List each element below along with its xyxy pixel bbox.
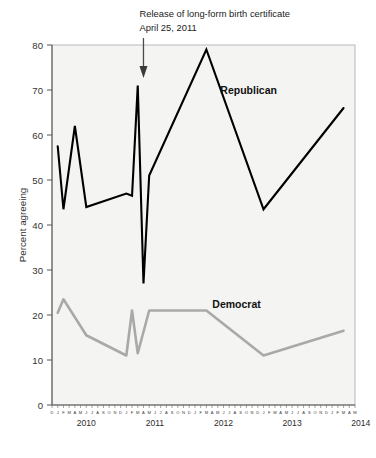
x-month-label: J: [160, 410, 162, 415]
x-month-label: N: [113, 410, 116, 415]
y-tick-label-80: 80: [32, 40, 43, 51]
y-tick-label-20: 20: [32, 310, 43, 321]
x-month-label: J: [297, 410, 299, 415]
x-month-label: M: [79, 410, 83, 415]
x-month-label: M: [136, 410, 140, 415]
x-month-label: A: [142, 410, 145, 415]
x-month-label: M: [285, 410, 289, 415]
x-month-label: J: [331, 410, 333, 415]
x-month-label: A: [74, 410, 77, 415]
x-month-label: O: [313, 410, 316, 415]
x-month-label: N: [251, 410, 254, 415]
x-month-label: N: [182, 410, 185, 415]
y-tick-label-10: 10: [32, 355, 43, 366]
y-tick-label-30: 30: [32, 265, 43, 276]
x-month-label: J: [291, 410, 293, 415]
x-month-label: A: [96, 410, 99, 415]
x-month-label: M: [147, 410, 151, 415]
x-month-label: D: [325, 410, 328, 415]
y-tick-label-70: 70: [32, 85, 43, 96]
x-month-label: J: [222, 410, 224, 415]
x-month-label: J: [194, 410, 196, 415]
x-month-label: A: [234, 410, 237, 415]
x-month-label: S: [171, 410, 174, 415]
x-month-label: J: [125, 410, 127, 415]
x-month-label: S: [102, 410, 105, 415]
x-month-label: A: [302, 410, 305, 415]
x-year-label-2014: 2014: [351, 418, 370, 428]
x-year-label-2013: 2013: [283, 418, 302, 428]
x-month-label: D: [119, 410, 122, 415]
x-month-label: M: [273, 410, 277, 415]
y-tick-label-0: 0: [38, 400, 43, 411]
x-month-label: S: [308, 410, 311, 415]
x-year-label-2012: 2012: [214, 418, 233, 428]
y-tick-label-40: 40: [32, 220, 43, 231]
x-month-label: N: [319, 410, 322, 415]
annotation-line-1: Release of long-form birth certificate: [139, 8, 290, 19]
birther-poll-line-chart: 01020304050607080 Percent agreeing DJFMA…: [0, 0, 376, 458]
x-month-label: M: [342, 410, 346, 415]
democrat-series-label: Democrat: [212, 298, 261, 310]
x-month-label: O: [108, 410, 111, 415]
x-month-label: A: [279, 410, 282, 415]
x-month-label: D: [256, 410, 259, 415]
x-month-label: J: [91, 410, 93, 415]
x-year-label-2011: 2011: [146, 418, 165, 428]
x-year-label-2010: 2010: [77, 418, 96, 428]
x-month-label: M: [67, 410, 71, 415]
x-month-label: A: [165, 410, 168, 415]
x-month-label: J: [85, 410, 87, 415]
x-month-label: J: [228, 410, 230, 415]
republican-series-label: Republican: [220, 84, 277, 96]
y-tick-label-60: 60: [32, 130, 43, 141]
annotation-line-2: April 25, 2011: [139, 22, 196, 33]
x-month-label: S: [239, 410, 242, 415]
x-month-label: O: [245, 410, 248, 415]
chart-figure: 01020304050607080 Percent agreeing DJFMA…: [0, 0, 376, 458]
x-month-label: A: [348, 410, 351, 415]
x-month-label: J: [57, 410, 59, 415]
x-month-label: A: [211, 410, 214, 415]
x-month-label: O: [176, 410, 179, 415]
x-month-label: M: [216, 410, 220, 415]
x-month-label: D: [51, 410, 54, 415]
x-month-label: J: [154, 410, 156, 415]
x-month-label: D: [188, 410, 191, 415]
y-axis-tick-labels: 01020304050607080: [32, 40, 43, 411]
plot-area: [52, 45, 355, 405]
y-tick-label-50: 50: [32, 175, 43, 186]
y-axis-title: Percent agreeing: [17, 188, 28, 263]
x-month-label: J: [263, 410, 265, 415]
x-month-label: M: [205, 410, 209, 415]
x-month-label: M: [353, 410, 357, 415]
